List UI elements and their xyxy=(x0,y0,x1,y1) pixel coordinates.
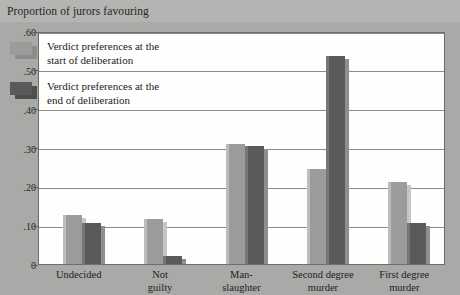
bar-group xyxy=(226,33,264,264)
bar-start-of-deliberation xyxy=(63,215,82,264)
x-axis-category-label: Man-slaughter xyxy=(201,269,282,294)
x-axis-category-line: murder xyxy=(282,282,363,295)
bar-shadow xyxy=(426,226,430,264)
bar-end-of-deliberation xyxy=(326,56,345,264)
legend-item: Verdict preferences at theend of deliber… xyxy=(10,80,225,107)
x-axis-category-line: First degree xyxy=(364,269,445,282)
x-axis-category-line: slaughter xyxy=(201,282,282,295)
x-axis-category-line: guilty xyxy=(119,282,200,295)
y-axis-tick-label: .30 xyxy=(8,143,36,154)
bar-slot xyxy=(388,33,407,264)
legend-swatch-front xyxy=(10,82,32,95)
x-axis-category-label: Notguilty xyxy=(119,269,200,294)
x-axis-category-line: Man- xyxy=(201,269,282,282)
bar-start-of-deliberation xyxy=(307,169,326,264)
y-axis-tick-label: 0 xyxy=(8,260,36,271)
y-axis-tick-label: .10 xyxy=(8,221,36,232)
y-axis-tick-mark xyxy=(33,265,38,266)
y-axis-tick-mark xyxy=(33,32,38,33)
bar-shadow xyxy=(182,259,186,264)
legend-item: Verdict preferences at thestart of delib… xyxy=(10,40,225,67)
bar-start-of-deliberation xyxy=(226,144,245,264)
chart-legend: Verdict preferences at thestart of delib… xyxy=(10,40,225,120)
bar-group xyxy=(388,33,426,264)
y-axis-tick-mark xyxy=(33,148,38,149)
y-axis-tick-mark xyxy=(33,226,38,227)
x-axis-category-line: Undecided xyxy=(38,269,119,282)
legend-label-line: Verdict preferences at the xyxy=(47,40,159,54)
legend-label: Verdict preferences at theend of deliber… xyxy=(47,80,159,107)
bar-group xyxy=(307,33,345,264)
bar-start-of-deliberation xyxy=(388,182,407,264)
x-axis-category-line: Not xyxy=(119,269,200,282)
x-axis-category-line: murder xyxy=(364,282,445,295)
bar-shadow xyxy=(264,149,268,264)
legend-swatch-front xyxy=(10,42,32,55)
x-axis-category-label: Second degreemurder xyxy=(282,269,363,294)
y-axis-tick-label: .20 xyxy=(8,182,36,193)
legend-swatch xyxy=(10,82,38,99)
bar-slot xyxy=(226,33,245,264)
legend-label-line: end of deliberation xyxy=(47,94,159,108)
bar-shadow xyxy=(345,59,349,264)
chart-title: Proportion of jurors favouring xyxy=(0,0,460,22)
bar-slot xyxy=(307,33,326,264)
bar-end-of-deliberation xyxy=(82,223,101,264)
bar-slot xyxy=(326,33,345,264)
x-axis-category-label: Undecided xyxy=(38,269,119,282)
legend-swatch xyxy=(10,42,38,59)
bar-slot xyxy=(407,33,426,264)
bar-shadow xyxy=(101,226,105,264)
x-axis-category-label: First degreemurder xyxy=(364,269,445,294)
legend-label: Verdict preferences at thestart of delib… xyxy=(47,40,159,67)
bar-start-of-deliberation xyxy=(144,219,163,264)
chart-frame: .60.50.40.30.20.100 UndecidedNotguiltyMa… xyxy=(0,22,460,295)
legend-label-line: Verdict preferences at the xyxy=(47,80,159,94)
y-axis-tick-mark xyxy=(33,187,38,188)
bar-end-of-deliberation xyxy=(407,223,426,264)
y-axis-tick-label: .60 xyxy=(8,27,36,38)
bar-slot xyxy=(245,33,264,264)
bar-end-of-deliberation xyxy=(163,256,182,264)
x-axis-category-line: Second degree xyxy=(282,269,363,282)
legend-label-line: start of deliberation xyxy=(47,54,159,68)
bar-end-of-deliberation xyxy=(245,146,264,264)
